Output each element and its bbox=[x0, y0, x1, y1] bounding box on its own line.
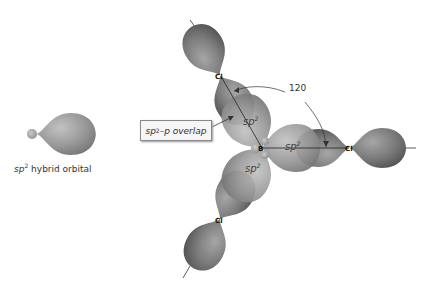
caption-sp: sp bbox=[14, 164, 24, 174]
angle-label: 120 bbox=[289, 83, 306, 93]
sp2-right-sup: 2 bbox=[297, 140, 301, 147]
caption-suffix: hybrid orbital bbox=[28, 164, 91, 174]
sp2-label-right: sp2 bbox=[285, 141, 300, 152]
cl-upper-label: Cl bbox=[215, 73, 223, 81]
overlap-callout: sp2–p overlap bbox=[140, 120, 212, 141]
cl-right-p-orbital bbox=[350, 128, 416, 168]
callout-sp: sp bbox=[145, 126, 155, 136]
sp2-upper-sup: 2 bbox=[255, 115, 259, 122]
sp2-right-prefix: sp bbox=[285, 141, 297, 152]
boron-atom-label: B bbox=[258, 145, 263, 153]
sp2-label-lower: sp2 bbox=[245, 163, 260, 174]
cl-right-label: Cl bbox=[345, 145, 353, 153]
callout-suffix: –p overlap bbox=[160, 126, 207, 136]
bcl3-diagram: B Cl Cl Cl bbox=[0, 0, 433, 291]
sp2-lower-sup: 2 bbox=[257, 162, 261, 169]
sp2-label-upper: sp2 bbox=[243, 116, 258, 127]
sp2-upper-prefix: sp bbox=[243, 116, 255, 127]
cl-lower-p-orbital bbox=[176, 210, 238, 278]
cl-lower-label: Cl bbox=[215, 217, 223, 225]
sp2-lower-prefix: sp bbox=[245, 163, 257, 174]
standalone-hybrid-orbital bbox=[27, 113, 96, 155]
cl-upper-p-orbital bbox=[175, 17, 238, 85]
hybrid-orbital-caption: sp2 hybrid orbital bbox=[14, 164, 92, 174]
